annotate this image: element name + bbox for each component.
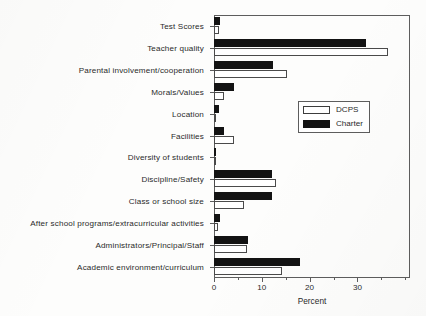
category-label: Administrators/Principal/Staff — [95, 241, 204, 250]
category-label: Location — [172, 109, 204, 118]
value-tick-label: 0 — [212, 283, 217, 292]
bar-dcps — [214, 70, 287, 78]
bar-dcps — [214, 223, 218, 231]
category-tick — [210, 201, 214, 202]
category-label: After school programs/extracurricular ac… — [30, 219, 204, 228]
value-tick-label: 20 — [305, 283, 314, 292]
value-tick-major — [262, 278, 263, 282]
x-axis-title: Percent — [298, 296, 327, 306]
legend-label-charter: Charter — [336, 119, 363, 128]
category-tick — [210, 26, 214, 27]
value-tick-major — [310, 278, 311, 282]
legend-item-charter: Charter — [303, 118, 367, 131]
bar-dcps — [214, 267, 282, 275]
category-label: Academic environment/curriculum — [77, 263, 204, 272]
category-label: Class or school size — [129, 197, 204, 206]
category-label: Diversity of students — [128, 153, 204, 162]
category-tick — [210, 136, 214, 137]
bar-charter — [214, 170, 272, 178]
bar-charter — [214, 105, 219, 113]
category-axis: Test ScoresTeacher qualityParental invol… — [0, 15, 210, 278]
legend-item-dcps: DCPS — [303, 104, 367, 117]
legend-label-dcps: DCPS — [336, 105, 359, 114]
value-tick-minor — [405, 278, 406, 280]
bar-charter — [214, 83, 234, 91]
bar-charter — [214, 148, 216, 156]
bar-dcps — [214, 136, 234, 144]
bar-charter — [214, 258, 300, 266]
chart-screenshot: Test ScoresTeacher qualityParental invol… — [0, 0, 426, 316]
category-label: Discipline/Safety — [141, 175, 204, 184]
value-tick-minor — [238, 278, 239, 280]
category-label: Facilities — [171, 131, 204, 140]
value-tick-label: 10 — [257, 283, 266, 292]
category-label: Teacher quality — [147, 43, 204, 52]
bar-dcps — [214, 201, 244, 209]
category-tick — [210, 70, 214, 71]
category-label: Test Scores — [160, 21, 204, 30]
chart-legend: DCPS Charter — [298, 101, 370, 133]
bar-charter — [214, 192, 272, 200]
category-tick — [210, 179, 214, 180]
category-tick — [210, 92, 214, 93]
bar-dcps — [214, 92, 224, 100]
value-tick-major — [214, 278, 215, 282]
bar-dcps — [214, 26, 219, 34]
value-tick-major — [357, 278, 358, 282]
bar-dcps — [214, 114, 216, 122]
category-tick — [210, 267, 214, 268]
bar-dcps — [214, 245, 247, 253]
bar-charter — [214, 236, 248, 244]
value-tick-minor — [334, 278, 335, 280]
bar-charter — [214, 17, 220, 25]
category-tick — [210, 223, 214, 224]
bar-charter — [214, 214, 220, 222]
value-tick-minor — [381, 278, 382, 280]
value-tick-minor — [286, 278, 287, 280]
category-tick — [210, 114, 214, 115]
value-tick-label: 30 — [353, 283, 362, 292]
bar-dcps — [214, 179, 276, 187]
category-tick — [210, 157, 214, 158]
category-label: Parental involvement/cooperation — [79, 65, 204, 74]
bar-charter — [214, 127, 224, 135]
category-label: Morals/Values — [151, 87, 204, 96]
bar-dcps — [214, 157, 216, 165]
category-tick — [210, 48, 214, 49]
bar-dcps — [214, 48, 388, 56]
legend-swatch-dcps-icon — [303, 106, 330, 114]
legend-swatch-charter-icon — [303, 120, 330, 128]
bar-charter — [214, 61, 273, 69]
bar-charter — [214, 39, 366, 47]
grouped-bar-chart: Test ScoresTeacher qualityParental invol… — [0, 0, 426, 316]
category-tick — [210, 245, 214, 246]
